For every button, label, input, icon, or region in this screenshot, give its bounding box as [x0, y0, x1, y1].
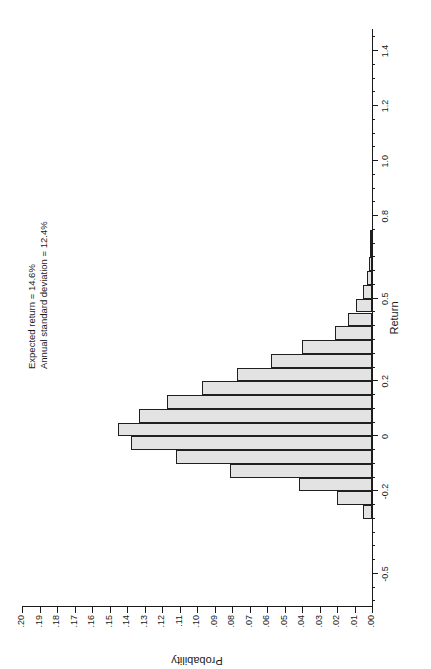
x-tick-minor [372, 256, 375, 257]
histogram-bar [299, 478, 373, 492]
y-tick-label: .16 [87, 615, 96, 641]
y-tick-major [372, 607, 373, 613]
x-tick-minor [372, 78, 375, 79]
x-tick-minor [372, 532, 375, 533]
y-tick-label: .04 [297, 615, 306, 641]
x-tick-minor [372, 91, 375, 92]
x-tick-minor [372, 174, 375, 175]
y-tick-major [302, 607, 303, 613]
histogram-bar [139, 409, 372, 423]
y-tick-label: .02 [332, 615, 341, 641]
histogram-bar [271, 354, 373, 368]
x-tick-major [372, 50, 378, 51]
x-tick-minor [372, 463, 375, 464]
chart-page: -0.5-0.200.20.50.81.01.21.4 .00.01.02.03… [0, 0, 431, 669]
y-tick-major [337, 607, 338, 613]
y-tick-major [250, 607, 251, 613]
y-tick-label: .05 [280, 615, 289, 641]
x-tick-major [372, 380, 378, 381]
histogram-bar [363, 285, 372, 299]
y-tick-major [355, 607, 356, 613]
histogram-bar [167, 395, 372, 409]
x-tick-minor [372, 367, 375, 368]
y-tick-major [232, 607, 233, 613]
y-tick-label: .15 [105, 615, 114, 641]
y-tick-major [75, 607, 76, 613]
histogram-bar [176, 450, 372, 464]
histogram-bar [348, 313, 373, 327]
y-tick-major [92, 607, 93, 613]
x-tick-minor [372, 243, 375, 244]
annotation-standard-deviation: Annual standard deviation = 12.4% [38, 221, 50, 369]
x-tick-minor [372, 188, 375, 189]
x-tick-major [372, 215, 378, 216]
histogram-bar [237, 368, 372, 382]
x-tick-minor [372, 422, 375, 423]
x-tick-minor [372, 339, 375, 340]
histogram-bar [118, 423, 372, 437]
x-tick-major [372, 160, 378, 161]
histogram-bar [363, 505, 372, 519]
y-tick-label: .08 [227, 615, 236, 641]
y-tick-major [40, 607, 41, 613]
y-tick-label: .20 [17, 615, 26, 641]
x-tick-minor [372, 201, 375, 202]
y-tick-major [162, 607, 163, 613]
histogram-bar [370, 230, 372, 244]
x-axis-line [372, 29, 373, 607]
histogram-bar [131, 436, 373, 450]
y-tick-major [110, 607, 111, 613]
statistics-annotation: Expected return = 14.6% Annual standard … [26, 221, 50, 369]
y-tick-label: .01 [350, 615, 359, 641]
y-tick-label: .06 [262, 615, 271, 641]
x-tick-minor [372, 133, 375, 134]
y-tick-major [285, 607, 286, 613]
y-tick-label: .14 [122, 615, 131, 641]
y-tick-label: .13 [140, 615, 149, 641]
y-tick-major [180, 607, 181, 613]
histogram-bar [335, 326, 372, 340]
x-tick-major [372, 298, 378, 299]
y-tick-label: .10 [192, 615, 201, 641]
x-tick-minor [372, 545, 375, 546]
y-tick-label: .19 [35, 615, 44, 641]
histogram-bar [302, 340, 372, 354]
y-tick-major [197, 607, 198, 613]
y-tick-label: .11 [175, 615, 184, 641]
y-axis-title: Probability [22, 653, 372, 669]
histogram-bar [369, 257, 373, 271]
x-tick-minor [372, 449, 375, 450]
y-tick-major [145, 607, 146, 613]
x-tick-minor [372, 559, 375, 560]
y-tick-major [320, 607, 321, 613]
x-tick-minor [372, 504, 375, 505]
x-tick-major [372, 105, 378, 106]
x-tick-minor [372, 518, 375, 519]
x-tick-major [372, 490, 378, 491]
x-tick-major [372, 573, 378, 574]
y-tick-label: .03 [315, 615, 324, 641]
plot-area: -0.5-0.200.20.50.81.01.21.4 .00.01.02.03… [22, 29, 372, 607]
x-tick-minor [372, 36, 375, 37]
x-tick-minor [372, 325, 375, 326]
annotation-expected-return: Expected return = 14.6% [26, 221, 38, 369]
y-axis-title-text: Probability [171, 655, 222, 667]
x-tick-minor [372, 587, 375, 588]
histogram-bar [337, 491, 372, 505]
x-tick-major [372, 435, 378, 436]
rotated-figure-wrapper: -0.5-0.200.20.50.81.01.21.4 .00.01.02.03… [0, 0, 431, 669]
y-tick-major [57, 607, 58, 613]
x-tick-minor [372, 64, 375, 65]
y-tick-label: .17 [70, 615, 79, 641]
histogram-bar [367, 271, 372, 285]
x-tick-minor [372, 146, 375, 147]
x-axis-title: Return [388, 29, 400, 607]
x-tick-minor [372, 477, 375, 478]
y-tick-label: .00 [367, 615, 376, 641]
histogram-bar [230, 464, 372, 478]
x-tick-minor [372, 229, 375, 230]
y-tick-major [22, 607, 23, 613]
y-tick-label: .09 [210, 615, 219, 641]
x-tick-minor [372, 601, 375, 602]
x-tick-minor [372, 119, 375, 120]
